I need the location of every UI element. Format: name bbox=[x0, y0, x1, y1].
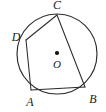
vertex-label-d: D bbox=[11, 30, 21, 44]
center-point-marker bbox=[55, 51, 59, 55]
vertex-label-b: B bbox=[89, 92, 97, 106]
vertex-label-a: A bbox=[25, 95, 34, 109]
geometry-figure: C D A B O bbox=[0, 0, 106, 112]
chord-c-d bbox=[26, 15, 57, 40]
center-label-o: O bbox=[53, 58, 61, 70]
chord-b-c bbox=[57, 15, 85, 87]
geometry-canvas: C D A B O bbox=[0, 0, 106, 112]
vertex-label-c: C bbox=[53, 0, 62, 12]
